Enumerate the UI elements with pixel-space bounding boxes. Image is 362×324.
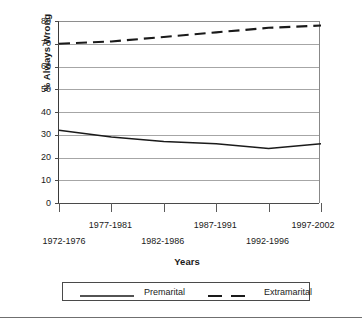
x-tick-label-5: 1997-2002 bbox=[291, 220, 334, 230]
legend-swatch-solid bbox=[79, 287, 135, 297]
chart-figure: % Always Wrong 01020304050607080 1972-19… bbox=[0, 0, 362, 324]
x-tick-mark-2 bbox=[164, 203, 165, 212]
legend-label-extramarital: Extramarital bbox=[264, 287, 312, 297]
x-tick-label-0: 1972-1976 bbox=[42, 236, 85, 246]
y-tick-label-30: 30 bbox=[5, 130, 51, 139]
x-axis-title-text: Years bbox=[174, 256, 199, 267]
y-tick-label-50: 50 bbox=[5, 85, 51, 94]
page-bottom-rule bbox=[0, 317, 362, 318]
y-tick-label-70: 70 bbox=[5, 39, 51, 48]
x-tick-mark-1 bbox=[111, 203, 112, 212]
y-tick-label-0: 0 bbox=[5, 199, 51, 208]
x-tick-mark-3 bbox=[216, 203, 217, 212]
x-tick-label-1: 1977-1981 bbox=[89, 220, 132, 230]
series-lines bbox=[59, 21, 321, 203]
x-tick-mark-0 bbox=[59, 203, 60, 212]
x-axis-title: Years bbox=[0, 256, 362, 267]
gridline-0 bbox=[59, 203, 319, 204]
legend-swatch-dashed bbox=[207, 287, 255, 297]
x-tick-mark-4 bbox=[269, 203, 270, 212]
y-tick-label-10: 10 bbox=[5, 176, 51, 185]
y-tick-label-80: 80 bbox=[5, 17, 51, 26]
chart-legend: Premarital Extramarital bbox=[62, 282, 310, 301]
x-tick-label-3: 1987-1991 bbox=[194, 220, 237, 230]
y-tick-label-40: 40 bbox=[5, 108, 51, 117]
line-extramarital bbox=[59, 26, 321, 44]
legend-entry-extramarital: Extramarital bbox=[207, 287, 312, 297]
legend-entry-premarital: Premarital bbox=[79, 287, 185, 297]
y-tick-label-20: 20 bbox=[5, 153, 51, 162]
x-tick-mark-5 bbox=[321, 203, 322, 212]
x-tick-label-2: 1982-1986 bbox=[141, 236, 184, 246]
plot-area bbox=[58, 21, 320, 203]
y-tick-label-60: 60 bbox=[5, 62, 51, 71]
legend-label-premarital: Premarital bbox=[144, 287, 185, 297]
line-premarital bbox=[59, 130, 321, 148]
x-tick-label-4: 1992-1996 bbox=[246, 236, 289, 246]
